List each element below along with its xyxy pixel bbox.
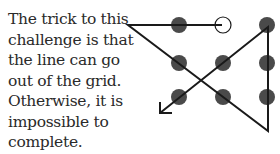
solution-path bbox=[128, 25, 268, 131]
nine-dots-diagram bbox=[0, 0, 280, 154]
path-line bbox=[128, 25, 268, 131]
